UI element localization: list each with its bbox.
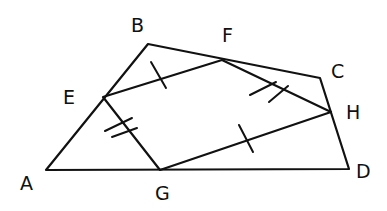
label-e: E xyxy=(63,86,75,108)
tick-mark-ef xyxy=(151,62,166,88)
label-f: F xyxy=(222,24,233,46)
tick-mark-fh-1 xyxy=(250,82,276,95)
label-d: D xyxy=(356,160,371,182)
outer-quadrilateral-abcd xyxy=(46,44,349,170)
geometry-diagram: A B C D E F G H xyxy=(0,0,387,211)
label-b: B xyxy=(131,14,144,36)
label-a: A xyxy=(20,172,33,194)
tick-mark-fh-2 xyxy=(269,86,288,102)
label-g: G xyxy=(155,182,170,204)
inner-quadrilateral-efhg xyxy=(103,60,331,170)
label-h: H xyxy=(346,101,360,123)
label-c: C xyxy=(331,60,344,82)
